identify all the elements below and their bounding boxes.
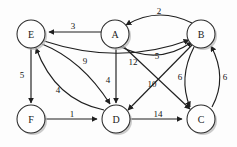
edge-weight-D-E: 4 (56, 85, 61, 95)
node-F[interactable]: F (17, 105, 47, 135)
edge-weight-A-B: 5 (155, 51, 160, 61)
node-C[interactable]: C (187, 105, 217, 135)
edge-weight-E-D: 9 (83, 56, 88, 66)
edge-weight-B-D: 10 (148, 79, 158, 89)
node-D[interactable]: D (102, 105, 132, 135)
edge-B-C (185, 47, 194, 107)
node-label-F: F (28, 114, 34, 125)
node-label-D: D (112, 114, 119, 125)
edge-D-E (36, 48, 104, 110)
graph-canvas: 3 2 5 9 4 5 4 12 10 6 6 1 14 E A (0, 0, 237, 147)
edge-weight-A-E: 3 (71, 21, 76, 31)
edge-weight-E-F: 5 (20, 70, 25, 80)
node-label-E: E (28, 29, 34, 40)
node-label-A: A (111, 29, 119, 40)
edge-weight-F-D: 1 (70, 109, 75, 119)
node-label-B: B (198, 29, 205, 40)
edge-weight-B-C: 6 (178, 72, 183, 82)
edge-B-A (126, 15, 192, 25)
edge-weight-A-D: 4 (106, 75, 111, 85)
edge-weight-B-A: 2 (157, 6, 162, 16)
edge-C-B (211, 46, 220, 107)
graph-figure: 3 2 5 9 4 5 4 12 10 6 6 1 14 E A (0, 0, 237, 147)
edge-weight-A-C: 12 (129, 57, 138, 67)
nodes-layer: E A B F D (17, 20, 217, 135)
node-E[interactable]: E (17, 20, 47, 50)
edge-weight-C-B: 6 (223, 72, 228, 82)
edge-weight-D-C: 14 (154, 109, 164, 119)
node-label-C: C (198, 114, 205, 125)
